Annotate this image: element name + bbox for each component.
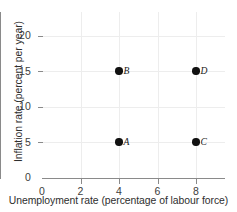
scatter-chart-figure: 0510152002468 ABCD Unemployment rate (pe… bbox=[0, 0, 237, 212]
y-axis-tick bbox=[38, 107, 43, 108]
x-axis-line bbox=[42, 178, 225, 179]
y-axis-tick bbox=[38, 71, 43, 72]
data-point-label-c: C bbox=[201, 136, 207, 147]
data-point-d bbox=[192, 67, 199, 74]
gridline-vertical bbox=[196, 12, 197, 178]
y-axis-tick bbox=[38, 142, 43, 143]
data-point-b bbox=[115, 67, 122, 74]
gridline-horizontal bbox=[43, 36, 225, 37]
x-axis-tick bbox=[119, 179, 120, 184]
y-axis-title: Inflation rate (percent per year) bbox=[13, 8, 24, 176]
gridline-vertical bbox=[158, 12, 159, 178]
data-point-c bbox=[192, 138, 199, 145]
x-axis-tick bbox=[196, 179, 197, 184]
x-axis-tick bbox=[81, 179, 82, 184]
data-point-label-a: A bbox=[124, 136, 130, 147]
x-axis-tick bbox=[158, 179, 159, 184]
data-point-label-b: B bbox=[124, 65, 130, 76]
data-point-label-d: D bbox=[201, 65, 208, 76]
gridline-vertical bbox=[119, 12, 120, 178]
x-axis-title: Unemployment rate (percentage of labour … bbox=[0, 195, 237, 206]
y-axis-tick bbox=[38, 36, 43, 37]
data-point-a bbox=[115, 138, 122, 145]
gridline-horizontal bbox=[43, 107, 225, 108]
gridline-vertical bbox=[81, 12, 82, 178]
y-axis-line bbox=[0, 12, 1, 179]
